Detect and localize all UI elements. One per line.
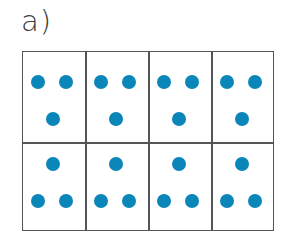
dot: [220, 194, 234, 208]
dot: [94, 194, 108, 208]
dot: [185, 194, 199, 208]
dot: [109, 112, 123, 126]
dot-card: [22, 141, 85, 231]
dot: [235, 157, 249, 171]
dot: [172, 112, 186, 126]
dot-card: [211, 141, 274, 231]
dot: [94, 75, 108, 89]
dot: [157, 194, 171, 208]
dot-card: [148, 141, 211, 231]
dot-card-grid: [22, 51, 274, 231]
dot-card: [22, 51, 85, 141]
dot: [172, 157, 186, 171]
dot: [122, 194, 136, 208]
dot: [235, 112, 249, 126]
dot: [157, 75, 171, 89]
dot-card: [148, 51, 211, 141]
dot: [220, 75, 234, 89]
dot: [248, 75, 262, 89]
dot: [46, 112, 60, 126]
dot-card: [85, 51, 148, 141]
dot: [109, 157, 123, 171]
dot-card: [211, 51, 274, 141]
dot: [31, 194, 45, 208]
dot: [185, 75, 199, 89]
dot: [31, 75, 45, 89]
exercise-label: a): [21, 3, 52, 39]
dot: [46, 157, 60, 171]
dot: [122, 75, 136, 89]
dot: [248, 194, 262, 208]
dot-card: [85, 141, 148, 231]
dot: [59, 194, 73, 208]
dot: [59, 75, 73, 89]
